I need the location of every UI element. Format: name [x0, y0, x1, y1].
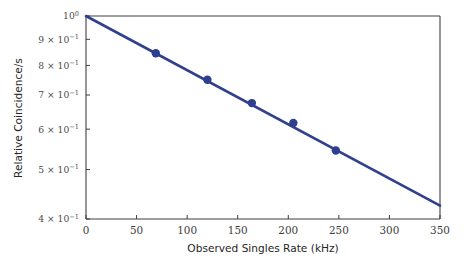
data-point-3: [289, 119, 297, 127]
x-tick-label-6: 300: [380, 224, 400, 236]
x-tick-label-7: 350: [430, 224, 450, 236]
data-point-4: [332, 146, 340, 154]
x-tick-label-5: 250: [329, 224, 349, 236]
x-tick-label-1: 50: [130, 224, 143, 236]
x-tick-label-0: 0: [83, 224, 90, 236]
x-tick-label-4: 200: [278, 224, 298, 236]
data-point-0: [152, 49, 160, 57]
x-tick-label-2: 100: [177, 224, 197, 236]
x-axis-title: Observed Singles Rate (kHz): [187, 242, 338, 254]
log-scatter-plot: 1009 × 10−18 × 10−17 × 10−16 × 10−15 × 1…: [0, 0, 469, 273]
y-axis-title: Relative Coincidence/s: [12, 58, 24, 178]
data-point-2: [248, 99, 256, 107]
data-point-1: [203, 76, 211, 84]
chart-figure: 1009 × 10−18 × 10−17 × 10−16 × 10−15 × 1…: [0, 0, 469, 273]
x-tick-label-3: 150: [228, 224, 248, 236]
